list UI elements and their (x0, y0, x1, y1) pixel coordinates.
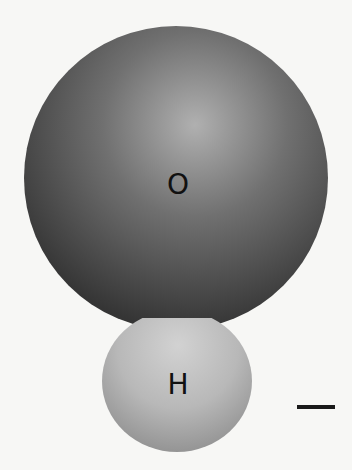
oxygen-label: O (167, 171, 189, 199)
molecule-diagram: O H (0, 0, 352, 470)
hydrogen-label: H (167, 371, 188, 399)
scale-bar (297, 405, 335, 409)
